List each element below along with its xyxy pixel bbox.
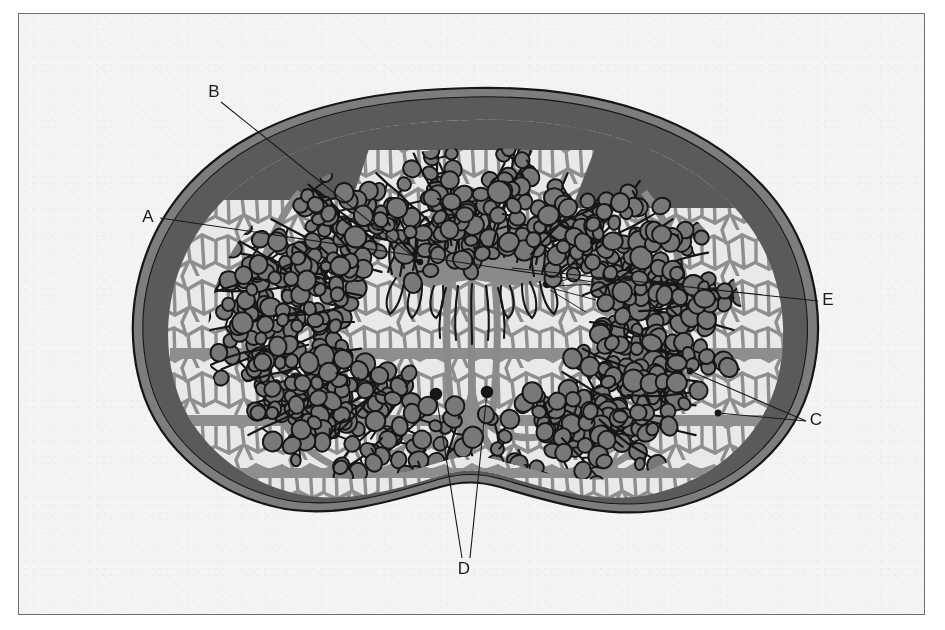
- organ-body: [120, 80, 840, 550]
- figure-page: ABCDE: [0, 0, 945, 630]
- label-c: C: [810, 410, 822, 429]
- anatomical-diagram-svg: ABCDE: [0, 0, 945, 630]
- label-a: A: [142, 207, 154, 226]
- label-e: E: [822, 290, 833, 309]
- label-d: D: [458, 559, 470, 578]
- label-b: B: [208, 82, 219, 101]
